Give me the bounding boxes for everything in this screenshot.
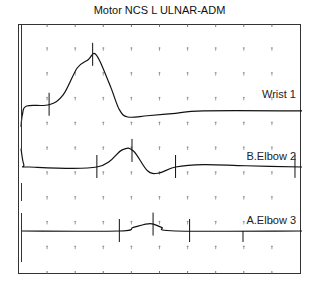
waveform-plot: Wrist 1B.Elbow 2A.Elbow 3 [0,0,319,287]
traces: Wrist 1B.Elbow 2A.Elbow 3 [21,43,302,242]
trace-label-1: Wrist 1 [262,88,296,100]
trace-label-2: B.Elbow 2 [246,150,296,162]
grid-ticks [46,24,273,274]
trace-label-3: A.Elbow 3 [246,214,296,226]
trace-line-1 [21,53,302,127]
